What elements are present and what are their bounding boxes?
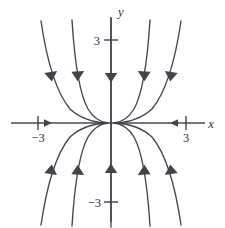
x-axis-label: x xyxy=(207,117,214,131)
lower-half-curves xyxy=(41,123,181,227)
arrow-upper-left-inner xyxy=(71,71,84,81)
phase-portrait-figure: y x 3 −3 −3 3 xyxy=(0,0,225,228)
x-tick-label-positive-3: 3 xyxy=(183,131,189,145)
x-tick-label-negative-3: −3 xyxy=(31,131,44,145)
arrow-lower-left-inner xyxy=(71,165,84,175)
x-axis-arrow-right-segment xyxy=(170,119,178,127)
x-axis-arrow-left-segment xyxy=(44,119,52,127)
upper-half-curves xyxy=(41,19,181,123)
arrow-upper-axis xyxy=(105,73,117,83)
arrow-lower-right-inner xyxy=(138,165,151,175)
arrow-upper-right-inner xyxy=(138,71,151,81)
y-tick-label-positive-3: 3 xyxy=(94,34,100,48)
arrow-lower-axis xyxy=(105,164,117,174)
tick-group xyxy=(38,40,186,202)
y-tick-label-negative-3: −3 xyxy=(88,196,101,210)
y-axis-label: y xyxy=(116,5,124,19)
